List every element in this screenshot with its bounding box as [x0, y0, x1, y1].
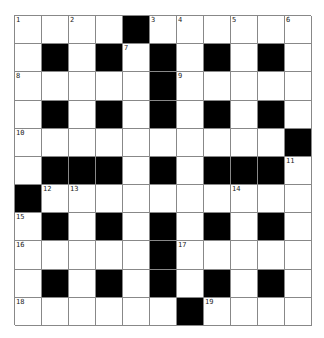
grid-cell[interactable]: [69, 44, 96, 72]
grid-cell[interactable]: [69, 298, 96, 326]
clue-number: 2: [70, 16, 74, 25]
grid-cell[interactable]: [96, 72, 123, 100]
grid-cell[interactable]: 18: [15, 298, 42, 326]
grid-cell[interactable]: [285, 298, 312, 326]
grid-cell[interactable]: [15, 44, 42, 72]
block-cell: [204, 101, 231, 129]
grid-cell[interactable]: 13: [69, 185, 96, 213]
grid-cell[interactable]: 9: [177, 72, 204, 100]
grid-cell[interactable]: [42, 16, 69, 44]
grid-cell[interactable]: [123, 185, 150, 213]
grid-cell[interactable]: [177, 270, 204, 298]
grid-cell[interactable]: [123, 101, 150, 129]
grid-cell[interactable]: 4: [177, 16, 204, 44]
grid-cell[interactable]: [177, 213, 204, 241]
grid-cell[interactable]: [123, 298, 150, 326]
grid-cell[interactable]: [42, 241, 69, 269]
grid-cell[interactable]: [231, 298, 258, 326]
grid-cell[interactable]: [123, 241, 150, 269]
grid-cell[interactable]: [285, 270, 312, 298]
grid-cell[interactable]: 16: [15, 241, 42, 269]
grid-cell[interactable]: [258, 298, 285, 326]
grid-cell[interactable]: [177, 185, 204, 213]
grid-cell[interactable]: [258, 129, 285, 157]
grid-cell[interactable]: 12: [42, 185, 69, 213]
grid-cell[interactable]: 19: [204, 298, 231, 326]
grid-cell[interactable]: [42, 298, 69, 326]
grid-cell[interactable]: [258, 16, 285, 44]
grid-cell[interactable]: [204, 185, 231, 213]
grid-cell[interactable]: 5: [231, 16, 258, 44]
grid-cell[interactable]: [42, 72, 69, 100]
grid-cell[interactable]: [96, 185, 123, 213]
clue-number: 11: [286, 157, 294, 166]
grid-cell[interactable]: [69, 213, 96, 241]
grid-cell[interactable]: [150, 129, 177, 157]
grid-cell[interactable]: [177, 129, 204, 157]
grid-cell[interactable]: 11: [285, 157, 312, 185]
grid-cell[interactable]: [204, 72, 231, 100]
grid-cell[interactable]: [177, 44, 204, 72]
grid-cell[interactable]: [204, 16, 231, 44]
block-cell: [123, 16, 150, 44]
grid-cell[interactable]: [177, 101, 204, 129]
grid-cell[interactable]: [69, 72, 96, 100]
block-cell: [177, 298, 204, 326]
grid-cell[interactable]: [231, 241, 258, 269]
grid-cell[interactable]: 14: [231, 185, 258, 213]
grid-cell[interactable]: [258, 72, 285, 100]
grid-cell[interactable]: [285, 241, 312, 269]
grid-cell[interactable]: [69, 129, 96, 157]
grid-cell[interactable]: [123, 72, 150, 100]
grid-cell[interactable]: 17: [177, 241, 204, 269]
grid-cell[interactable]: [285, 213, 312, 241]
grid-cell[interactable]: [96, 16, 123, 44]
grid-cell[interactable]: [42, 129, 69, 157]
grid-cell[interactable]: [150, 185, 177, 213]
block-cell: [96, 44, 123, 72]
grid-cell[interactable]: [231, 270, 258, 298]
grid-cell[interactable]: [231, 213, 258, 241]
grid-cell[interactable]: [204, 129, 231, 157]
grid-cell[interactable]: [150, 298, 177, 326]
grid-cell[interactable]: [123, 129, 150, 157]
grid-cell[interactable]: [15, 101, 42, 129]
grid-cell[interactable]: 6: [285, 16, 312, 44]
block-cell: [258, 44, 285, 72]
grid-cell[interactable]: 10: [15, 129, 42, 157]
grid-cell[interactable]: 15: [15, 213, 42, 241]
grid-cell[interactable]: [69, 241, 96, 269]
grid-cell[interactable]: [69, 270, 96, 298]
clue-number: 19: [205, 298, 213, 307]
grid-cell[interactable]: [177, 157, 204, 185]
grid-cell[interactable]: 1: [15, 16, 42, 44]
grid-cell[interactable]: [15, 270, 42, 298]
clue-number: 16: [16, 241, 24, 250]
grid-cell[interactable]: [123, 213, 150, 241]
grid-cell[interactable]: [258, 241, 285, 269]
grid-cell[interactable]: [231, 44, 258, 72]
grid-cell[interactable]: 3: [150, 16, 177, 44]
grid-cell[interactable]: [96, 129, 123, 157]
grid-cell[interactable]: [231, 101, 258, 129]
grid-cell[interactable]: [204, 241, 231, 269]
grid-cell[interactable]: [231, 129, 258, 157]
grid-cell[interactable]: [258, 185, 285, 213]
grid-cell[interactable]: [285, 44, 312, 72]
grid-cell[interactable]: 7: [123, 44, 150, 72]
grid-cell[interactable]: [231, 72, 258, 100]
grid-cell[interactable]: 8: [15, 72, 42, 100]
grid-cell[interactable]: 2: [69, 16, 96, 44]
grid-cell[interactable]: [96, 241, 123, 269]
grid-cell[interactable]: [123, 270, 150, 298]
grid-cell[interactable]: [285, 72, 312, 100]
clue-number: 4: [178, 16, 182, 25]
grid-cell[interactable]: [123, 157, 150, 185]
block-cell: [204, 44, 231, 72]
grid-cell[interactable]: [285, 101, 312, 129]
grid-cell[interactable]: [96, 298, 123, 326]
grid-cell[interactable]: [69, 101, 96, 129]
grid-cell[interactable]: [15, 157, 42, 185]
block-cell: [96, 270, 123, 298]
grid-cell[interactable]: [285, 185, 312, 213]
